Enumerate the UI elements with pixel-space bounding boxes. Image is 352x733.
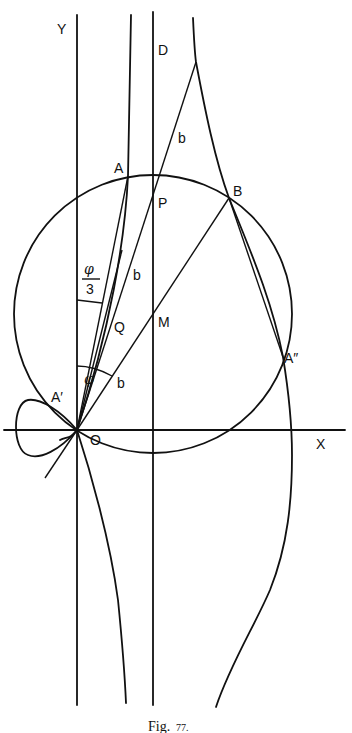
label-phi-over-3-num: φ [84,261,94,277]
label-M: M [158,314,170,330]
label-x: X [316,436,326,452]
label-b-upper: b [178,130,186,146]
trisection-conchoid-diagram: Y X D A B P Q M A′ A″ O b b b φ φ 3 Fig.… [0,0,352,733]
label-A-prime: A′ [51,389,63,405]
conchoid-inner-lower [77,430,126,703]
ray-O-peak [77,62,196,430]
caption-fig: Fig. [148,719,170,733]
label-A: A [114,160,124,176]
label-P: P [158,195,167,211]
angle-mark-phi-3 [77,300,102,303]
label-B: B [233,183,242,199]
label-A-double-prime: A″ [284,350,298,366]
label-O: O [90,432,101,448]
label-Q: Q [114,319,125,335]
label-D: D [158,42,168,58]
conchoid-outer [193,18,292,707]
caption-number: 77. [176,722,189,733]
label-y: Y [57,21,67,37]
tangent-lower [45,430,77,478]
label-b-lower: b [117,375,125,391]
label-phi: φ [84,371,94,387]
label-b-middle: b [133,267,141,283]
label-phi-over-3-den: 3 [86,281,94,297]
conchoid-loop [16,400,77,456]
ray-aux [77,250,122,430]
